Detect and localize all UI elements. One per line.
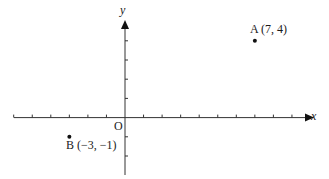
plotted-points [67, 39, 257, 139]
point-a-label: A (7, 4) [250, 23, 287, 35]
axis-ticks [14, 41, 292, 156]
y-axis-arrow-icon [121, 20, 129, 29]
x-axis-label: x [311, 110, 316, 122]
point-a-dot [253, 39, 257, 43]
point-b-label: B (−3, −1) [66, 139, 117, 151]
origin-label: O [114, 120, 123, 132]
y-axis-label: y [120, 4, 125, 16]
